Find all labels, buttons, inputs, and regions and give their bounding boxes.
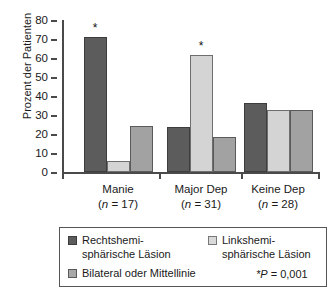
y-tick-mark [51,58,57,60]
category-sample-size: (n = 28) [251,197,305,212]
y-tick-label: 60 [35,52,48,64]
x-axis-line [62,172,318,174]
y-tick-mark [51,96,57,98]
y-tick-mark [51,115,57,117]
bar-manie-s1 [84,37,107,172]
p-value-rest: = 0,001 [268,268,308,280]
bar-major-dep-s1 [167,127,190,172]
legend-item-rechtshemispharisch: Rechtshemi- sphärische Läsion [68,234,171,261]
bar-chart: Prozent der Patienten 01020304050607080 … [0,0,332,294]
y-tick-mark [51,134,57,136]
y-tick-mark [51,39,57,41]
bar-keine-dep-s2 [267,110,290,172]
significance-star: * [199,40,204,52]
y-tick-label: 80 [35,14,48,26]
x-axis-label-keine-dep: Keine Dep(n = 28) [251,182,305,212]
bar-manie-s2 [107,161,130,172]
y-axis-line [62,20,64,173]
x-axis-tick [318,172,320,179]
bar-keine-dep-s3 [290,110,313,172]
legend-swatch-mid-icon [68,269,77,278]
legend-swatch-light-icon [208,236,217,245]
legend-item-bilateral: Bilateral oder Mittellinie [68,267,196,281]
p-value-symbol: *P [256,268,268,280]
y-tick-mark [51,77,57,79]
bar-major-dep-s3 [213,137,236,172]
y-tick-label: 0 [42,166,48,178]
plot-area: 01020304050607080 ** [63,20,318,172]
legend-label: Rechtshemi- sphärische Läsion [82,234,171,261]
category-sample-size: (n = 17) [98,197,138,212]
x-axis-label-major-dep: Major Dep(n = 31) [174,182,227,212]
category-name: Keine Dep [251,183,305,195]
y-tick-label: 70 [35,33,48,45]
bar-manie-s3 [130,126,153,172]
y-tick-label: 20 [35,128,48,140]
x-axis-tick [159,172,161,179]
chart-legend: Rechtshemi- sphärische Läsion Linkshemi-… [59,227,327,287]
category-name: Major Dep [174,183,227,195]
bar-keine-dep-s1 [244,103,267,172]
category-name: Manie [102,183,133,195]
legend-item-linkshemispharisch: Linkshemi- sphärische Läsion [208,234,311,261]
x-axis-tick [62,172,64,179]
p-value-note: *P = 0,001 [256,268,308,280]
y-tick-label: 40 [35,90,48,102]
significance-star: * [93,22,98,34]
y-tick-mark [51,172,57,174]
y-tick-mark [51,20,57,22]
y-tick-label: 30 [35,109,48,121]
y-tick-mark [51,153,57,155]
legend-swatch-dark-icon [68,236,77,245]
y-tick-label: 50 [35,71,48,83]
y-tick-label: 10 [35,147,48,159]
bar-major-dep-s2 [190,55,213,172]
x-axis-tick [241,172,243,179]
legend-label: Linkshemi- sphärische Läsion [222,234,311,261]
x-axis-label-manie: Manie(n = 17) [98,182,138,212]
category-sample-size: (n = 31) [174,197,227,212]
legend-label: Bilateral oder Mittellinie [82,267,196,281]
x-axis-category-labels: Manie(n = 17)Major Dep(n = 31)Keine Dep(… [63,182,318,218]
y-axis-title: Prozent der Patienten [21,0,33,141]
